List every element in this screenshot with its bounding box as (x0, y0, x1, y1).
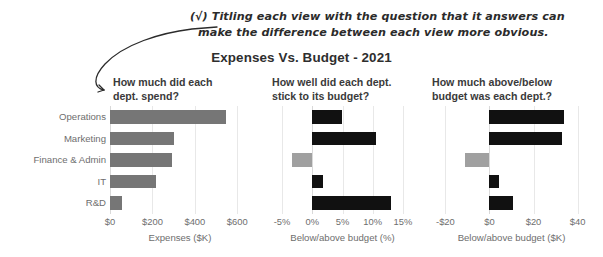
bar-r-d (312, 196, 391, 210)
bar-row (430, 106, 593, 128)
x-tick-label-1-2: 5% (336, 216, 350, 227)
x-tick-label-1-4: 15% (394, 216, 413, 227)
x-axis-title-0: Expenses ($K) (110, 232, 250, 243)
bar-it (110, 175, 156, 189)
x-axis-title-2: Below/above budget ($K) (430, 232, 593, 243)
bar-row (270, 106, 415, 128)
x-axis-ticks-1: -5%0%5%10%15% (270, 216, 415, 230)
x-tick-label-2-3: $40 (570, 216, 586, 227)
plot-area-1 (270, 106, 415, 214)
panel-budget-percent (270, 106, 415, 214)
bar-finance-admin (110, 153, 172, 167)
x-tick-label-0-1: $200 (142, 216, 163, 227)
bar-operations (312, 110, 342, 124)
panel-subtitle-0-line2: dept. spend? (113, 90, 179, 102)
category-label-2: Finance & Admin (6, 149, 106, 171)
bar-operations (110, 110, 226, 124)
panel-subtitle-0-line1: How much did each (113, 76, 212, 88)
bar-row (270, 149, 415, 171)
annotation-note: (√) Titling each view with the question … (190, 9, 590, 40)
bar-row (110, 171, 250, 193)
panel-subtitle-2-line1: How much above/below (432, 76, 552, 88)
plot-area-0 (110, 106, 250, 214)
category-label-1: Marketing (6, 128, 106, 150)
panel-subtitle-2: How much above/below budget was each dep… (432, 76, 600, 103)
chart-title: Expenses Vs. Budget - 2021 (0, 50, 603, 65)
bar-row (270, 192, 415, 214)
bar-row (270, 128, 415, 150)
x-tick-label-1-0: -5% (274, 216, 291, 227)
bar-it (489, 175, 499, 189)
plot-area-2 (430, 106, 593, 214)
x-tick-label-0-3: $600 (227, 216, 248, 227)
panel-subtitle-0: How much did each dept. spend? (113, 76, 263, 103)
panel-subtitle-1-line2: stick to its budget? (272, 90, 369, 102)
x-tick-label-0-2: $400 (184, 216, 205, 227)
bar-operations (489, 110, 564, 124)
bar-r-d (489, 196, 512, 210)
bar-marketing (312, 132, 375, 146)
bar-row (270, 171, 415, 193)
bar-marketing (110, 132, 174, 146)
x-tick-label-2-0: -$20 (436, 216, 455, 227)
x-tick-label-0-0: $0 (105, 216, 115, 227)
bar-row (110, 106, 250, 128)
panel-budget-dollars (430, 106, 593, 214)
x-tick-label-2-1: $0 (484, 216, 494, 227)
chart-figure: (√) Titling each view with the question … (0, 0, 603, 257)
annotation-line-2: make the difference between each view mo… (198, 25, 590, 41)
bar-finance-admin (465, 153, 489, 167)
x-tick-label-1-3: 10% (363, 216, 382, 227)
bar-row (430, 149, 593, 171)
bar-row (110, 192, 250, 214)
category-label-4: R&D (6, 192, 106, 214)
panel-subtitle-2-line2: budget was each dept.? (432, 90, 552, 102)
category-label-0: Operations (6, 106, 106, 128)
category-axis-labels: OperationsMarketingFinance & AdminITR&D (6, 106, 106, 214)
bar-row (110, 128, 250, 150)
panel-subtitle-1-line1: How well did each dept. (272, 76, 392, 88)
category-label-3: IT (6, 171, 106, 193)
x-tick-label-1-1: 0% (306, 216, 320, 227)
bar-r-d (110, 196, 122, 210)
bar-row (430, 192, 593, 214)
bar-it (312, 175, 322, 189)
x-axis-ticks-0: $0$200$400$600 (110, 216, 250, 230)
bar-row (110, 149, 250, 171)
panel-subtitle-1: How well did each dept. stick to its bud… (272, 76, 432, 103)
bar-marketing (489, 132, 562, 146)
x-axis-title-1: Below/above budget (%) (270, 232, 415, 243)
bar-row (430, 128, 593, 150)
bar-finance-admin (292, 153, 312, 167)
x-axis-ticks-2: -$20$0$20$40 (430, 216, 593, 230)
x-tick-label-2-2: $20 (526, 216, 542, 227)
annotation-line-1: Titling each view with the question that… (212, 10, 565, 23)
panel-expenses (110, 106, 250, 214)
bar-row (430, 171, 593, 193)
